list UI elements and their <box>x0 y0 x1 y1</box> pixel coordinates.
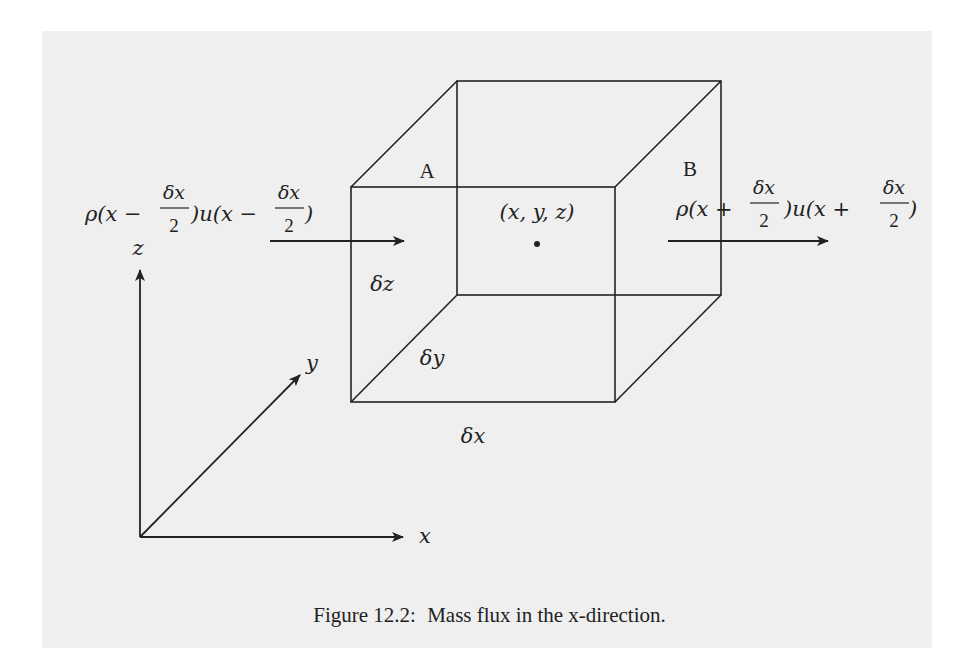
svg-text:2: 2 <box>284 215 294 236</box>
svg-text:2: 2 <box>759 210 769 231</box>
face-b-label: B <box>683 157 697 181</box>
delta-x-label: δx <box>461 424 486 448</box>
cube-back-face <box>457 81 721 295</box>
svg-text:)u(x −: )u(x − <box>190 202 257 226</box>
outflow-expression: ρ(x + δx 2 )u(x + δx 2 ) <box>675 176 917 231</box>
coordinate-axes <box>140 270 403 537</box>
svg-text:ρ(x +: ρ(x + <box>675 197 733 221</box>
face-a-label: A <box>419 159 435 183</box>
svg-text:2: 2 <box>889 210 899 231</box>
svg-text:δx: δx <box>163 181 185 203</box>
svg-text:2: 2 <box>169 215 179 236</box>
figure-caption-text: Mass flux in the x-direction. <box>427 603 666 627</box>
inflow-expression: ρ(x − δx 2 )u(x − δx 2 ) <box>84 181 313 236</box>
mass-flux-diagram: (x, y, z) A B δz δy δx ρ(x − δx 2 )u(x −… <box>0 0 979 662</box>
z-axis-label: z <box>131 236 144 260</box>
center-point-dot <box>534 241 540 247</box>
svg-text:δx: δx <box>883 176 905 198</box>
figure-caption: Figure 12.2: Mass flux in the x-directio… <box>0 603 979 628</box>
svg-text:ρ(x −: ρ(x − <box>84 202 142 226</box>
delta-y-label: δy <box>420 346 446 370</box>
x-axis-label: x <box>419 524 431 548</box>
y-axis <box>140 375 300 537</box>
svg-text:): ) <box>304 202 313 226</box>
center-point-label: (x, y, z) <box>499 200 574 224</box>
svg-text:δx: δx <box>753 176 775 198</box>
y-axis-label: y <box>305 351 319 375</box>
svg-text:): ) <box>908 197 917 221</box>
figure-number: Figure 12.2: <box>313 603 416 627</box>
delta-z-label: δz <box>370 272 395 296</box>
svg-text:)u(x +: )u(x + <box>783 197 850 221</box>
svg-text:δx: δx <box>278 181 300 203</box>
